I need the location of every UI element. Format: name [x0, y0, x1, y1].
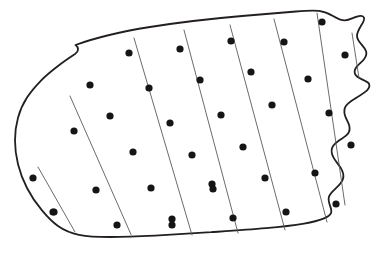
sample-point-marker — [168, 215, 175, 222]
sample-point-marker — [166, 119, 173, 126]
sample-point-marker — [229, 214, 236, 221]
sample-point-marker — [227, 37, 234, 44]
sample-point-marker — [217, 111, 224, 118]
sample-point-marker — [86, 81, 93, 88]
sample-point-marker — [125, 49, 132, 56]
sample-point-marker — [282, 208, 289, 215]
sample-point-marker — [318, 18, 325, 25]
sample-point-marker — [196, 76, 203, 83]
sample-point-marker — [70, 127, 77, 134]
sample-point-marker — [129, 148, 136, 155]
sample-point-marker — [268, 101, 275, 108]
sample-point-marker — [147, 184, 154, 191]
sample-point-marker — [261, 174, 268, 181]
sample-point-marker — [113, 221, 120, 228]
sample-point-marker — [239, 143, 246, 150]
sample-point-marker — [145, 84, 152, 91]
sample-point-marker — [50, 208, 57, 215]
figure-container — [0, 0, 386, 257]
sample-point-marker — [208, 180, 215, 187]
sample-point-marker — [311, 169, 318, 176]
sample-point-marker — [106, 112, 113, 119]
sample-point-marker — [332, 200, 339, 207]
sample-point-marker — [304, 75, 311, 82]
sample-point-marker — [188, 151, 195, 158]
sample-point-marker — [29, 174, 36, 181]
sample-point-marker — [247, 68, 254, 75]
sample-point-marker — [92, 186, 99, 193]
sample-point-marker — [325, 109, 332, 116]
sample-point-marker — [176, 45, 183, 52]
transect-diagram-canvas — [0, 0, 386, 257]
sample-point-marker — [280, 38, 287, 45]
sample-point-marker — [341, 51, 348, 58]
sample-point-marker — [347, 141, 354, 148]
